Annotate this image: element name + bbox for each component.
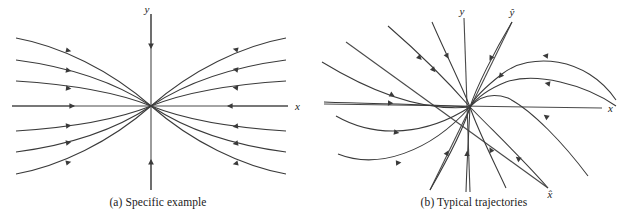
panel-a: y x (a) Specific example <box>0 0 316 224</box>
panel-a-plot: y x <box>0 0 316 224</box>
flow-arrow-b-1 <box>542 53 548 59</box>
panel-b-caption: (b) Typical trajectories <box>316 196 632 208</box>
panel-b-x-axis-label: x <box>607 102 613 114</box>
flow-arrow-b-7 <box>396 160 402 166</box>
flow-arrow-b-9 <box>444 53 451 60</box>
flow-arrow-b-5 <box>389 92 396 99</box>
flow-arrow-ll-3 <box>65 159 72 166</box>
trajectory-b-1 <box>470 61 616 107</box>
panel-b-plot: y x ŷ x̂ <box>316 0 632 224</box>
flow-arrow-lr-3 <box>232 160 239 167</box>
x-hat-axis-line <box>346 42 548 188</box>
panel-b-y-hat-axis-label: ŷ <box>509 6 515 18</box>
trajectory-lr-3 <box>151 106 286 174</box>
flow-arrow-b-3 <box>542 113 550 121</box>
panel-b-axes <box>324 18 602 192</box>
flow-arrow-ll-1 <box>66 123 72 129</box>
flow-arrow-b-16 <box>430 66 438 74</box>
trajectory-b-5 <box>322 62 470 108</box>
flow-arrow-ur-2 <box>232 66 238 72</box>
panel-a-x-axis-label: x <box>294 100 300 112</box>
flow-arrow-lr-1 <box>232 123 238 129</box>
trajectory-b-8 <box>388 26 470 107</box>
trajectory-ur-1 <box>151 38 286 106</box>
trajectory-b-6 <box>336 107 470 131</box>
flow-arrow-ur-1 <box>232 46 239 53</box>
panel-a-caption: (a) Specific example <box>0 196 316 208</box>
flow-arrow-ll-2 <box>65 139 71 145</box>
panel-a-y-axis-label: y <box>144 3 150 15</box>
panel-b: y x ŷ x̂ (b) Typical trajectories <box>316 0 632 224</box>
trajectory-ul-1 <box>16 38 151 106</box>
figure-root: y x (a) Specific example <box>0 0 632 224</box>
flow-arrow-b-2 <box>544 80 550 86</box>
flow-arrow-b-6 <box>394 129 400 135</box>
trajectory-b-13 <box>470 107 506 188</box>
panel-b-y-axis-label: y <box>459 5 465 17</box>
trajectory-b-14 <box>470 107 548 188</box>
trajectory-ll-3 <box>16 106 151 174</box>
